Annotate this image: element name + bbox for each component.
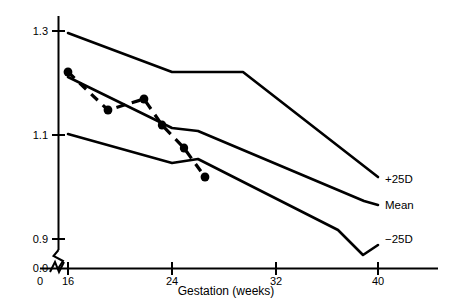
y-axis-tick-label-1.3: 1.3 <box>14 26 48 37</box>
series-label-upper-band: +25D <box>385 174 413 186</box>
y-axis-tick-label-0.9: 0.9 <box>14 234 48 245</box>
data-point-marker <box>140 94 149 103</box>
y-axis-tick-label-0.0: 0.0 <box>14 263 48 274</box>
data-point-marker <box>64 67 73 76</box>
chart-plot-area <box>0 0 452 306</box>
y-axis-tick-label-1.1: 1.1 <box>14 130 48 141</box>
series-label-mean-band: Mean <box>385 200 414 212</box>
series-line-lower-band <box>68 134 378 255</box>
chart-figure: 1.3 1.1 0.9 0.0 0 16 24 32 40 +25D Mean … <box>0 0 452 306</box>
x-axis-title: Gestation (weeks) <box>0 285 452 297</box>
series-label-lower-band: −25D <box>385 234 413 246</box>
data-point-marker <box>158 120 166 129</box>
series-line-upper-band <box>68 33 378 177</box>
data-point-marker <box>104 105 113 114</box>
data-point-marker <box>180 143 188 152</box>
data-point-marker <box>201 172 210 181</box>
